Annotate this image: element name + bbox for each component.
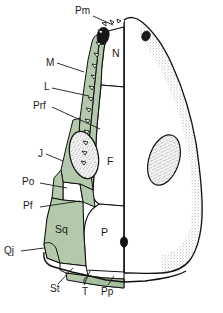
leader-j: [46, 154, 63, 161]
label-jugal: J: [38, 149, 43, 159]
label-supratemporal: St: [50, 284, 59, 294]
leader-qj: [21, 248, 44, 251]
pineal-foramen: [120, 237, 127, 247]
label-premaxilla: Pm: [75, 6, 90, 16]
label-postparietal: Pp: [101, 287, 113, 297]
label-parietal: P: [101, 227, 108, 237]
leader-m: [57, 63, 84, 72]
label-lacrimal: L: [44, 82, 50, 92]
label-squamosal: Sq: [55, 224, 68, 234]
skull-diagram-figure: Pm M L Prf J Po Pf Qj St T Pp N F Sq P: [0, 0, 223, 313]
label-maxilla: M: [46, 58, 54, 68]
label-nasal: N: [112, 48, 120, 58]
skull-right-half: [124, 18, 202, 274]
label-postorbital: Po: [22, 177, 34, 187]
label-prefrontal: Prf: [33, 101, 46, 111]
label-quadratojugal: Qj: [4, 246, 14, 256]
label-postfrontal: Pf: [23, 201, 32, 211]
label-frontal: F: [107, 156, 113, 166]
label-tabular: T: [82, 287, 88, 297]
bone-postorbital: [52, 170, 63, 200]
bone-parietal: [84, 204, 124, 272]
